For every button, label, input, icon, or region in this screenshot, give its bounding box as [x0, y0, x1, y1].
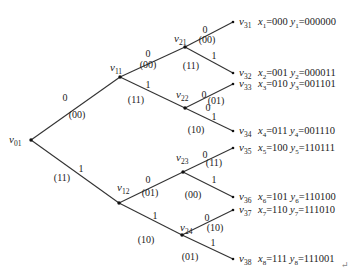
- node-label-v34: v34: [239, 124, 252, 139]
- node-dot-v37: [232, 209, 235, 212]
- edge-output-bits: (11): [183, 60, 199, 72]
- edge-input-bit: 0: [146, 48, 151, 59]
- leaf-label-v37: x7=110 y7=111010: [257, 204, 335, 218]
- node-dot-v31: [232, 21, 235, 24]
- node-dot-v34: [232, 130, 235, 133]
- node-label-v37: v37: [239, 203, 252, 218]
- node-dot-v12: [117, 201, 120, 204]
- leaf-label-v34: x4=011 y4=001110: [257, 125, 335, 139]
- edge-v12-v24: [119, 203, 182, 235]
- node-dot-v36: [232, 196, 235, 199]
- node-label-v23: v23: [176, 151, 189, 166]
- edge-output-bits: (10): [207, 222, 224, 234]
- tree-edges: [31, 22, 233, 259]
- leaf-label-v35: x5=100 y5=110111: [257, 142, 335, 156]
- node-label-v01: v01: [9, 133, 22, 148]
- node-label-v31: v31: [239, 15, 252, 30]
- edge-output-bits: (10): [138, 234, 155, 246]
- edge-input-bit: 1: [153, 210, 158, 221]
- edge-input-bit: 0: [146, 174, 151, 185]
- edge-input-bit: 1: [146, 79, 151, 90]
- paragraph-return-icon: ↵: [341, 260, 349, 270]
- node-dot-v23: [181, 170, 184, 173]
- edge-output-bits: (11): [128, 94, 144, 106]
- edge-output-bits: (00): [140, 59, 157, 71]
- edge-input-bit: 0: [63, 92, 68, 103]
- node-label-v22: v22: [176, 88, 189, 103]
- leaf-label-v36: x6=101 y6=110100: [257, 191, 336, 205]
- leaf-label-v31: x1=000 y1=000000: [257, 16, 336, 30]
- edge-output-bits: (01): [142, 187, 159, 199]
- edge-v01-v12: [31, 140, 119, 203]
- node-label-v21: v21: [174, 32, 187, 47]
- leaf-codeword-labels: x1=000 y1=000000x2=001 y2=000011x3=010 y…: [257, 16, 336, 267]
- extra-bit-label: 0: [206, 102, 211, 113]
- node-dot-v24: [180, 233, 183, 236]
- node-label-v35: v35: [239, 141, 252, 156]
- node-label-v38: v38: [239, 252, 252, 267]
- node-dot-v33: [232, 83, 235, 86]
- node-dot-v32: [232, 72, 235, 75]
- edge-input-bit: 1: [212, 50, 217, 61]
- node-label-v12: v12: [117, 181, 130, 196]
- edge-input-bit: 1: [212, 111, 217, 122]
- edge-output-bits: (00): [69, 109, 86, 121]
- node-dot-v22: [183, 106, 186, 109]
- node-label-v11: v11: [110, 61, 122, 76]
- edge-input-bit: 1: [211, 237, 216, 248]
- edge-output-bits: (11): [54, 172, 70, 184]
- edge-output-bits: (00): [185, 189, 202, 201]
- edge-input-bit: 1: [79, 163, 84, 174]
- edge-input-bit: 0: [202, 89, 207, 100]
- edge-output-bits: (00): [199, 34, 216, 46]
- edge-output-bits: (01): [182, 251, 199, 263]
- node-dot-v01: [29, 138, 32, 141]
- leaf-label-v38: x8=111 y8=111001: [257, 253, 335, 267]
- code-tree-diagram: 0(00)1(11)0(00)1(11)0(01)1(10)0(00)1(11)…: [0, 0, 349, 280]
- edge-output-bits: (10): [188, 124, 205, 136]
- node-dot-v38: [232, 258, 235, 261]
- node-dot-v35: [232, 147, 235, 150]
- edge-input-bit: 1: [212, 174, 217, 185]
- edge-output-bits: (11): [206, 157, 222, 169]
